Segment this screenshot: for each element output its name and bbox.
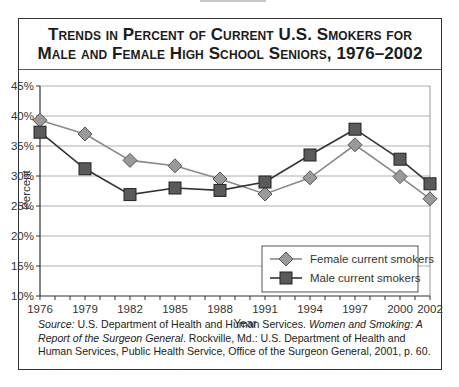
female-data-point: [123, 153, 137, 167]
source-label: Source:: [38, 318, 75, 330]
male-data-point: [34, 126, 46, 138]
legend-square-icon: [280, 272, 292, 284]
male-data-point: [304, 149, 316, 161]
legend-label: Female current smokers: [310, 253, 434, 265]
x-tick-label: 2002: [417, 303, 443, 315]
x-tick-label: 1976: [27, 303, 53, 315]
x-tick-label: 1988: [207, 303, 233, 315]
female-data-point: [168, 159, 182, 173]
y-tick-label: 15%: [11, 260, 34, 272]
y-tick-label: 40%: [11, 110, 34, 122]
female-data-point: [393, 170, 407, 184]
x-tick-label: 1982: [117, 303, 143, 315]
x-tick-label: 2000: [387, 303, 413, 315]
female-data-point: [348, 138, 362, 152]
y-axis-title: Percent: [20, 169, 32, 209]
male-data-point: [259, 176, 271, 188]
female-data-point: [33, 113, 47, 127]
x-tick-label: 1997: [342, 303, 368, 315]
x-tick-label: 1985: [162, 303, 188, 315]
female-data-point: [78, 127, 92, 141]
x-tick-label: 1979: [72, 303, 98, 315]
male-data-point: [169, 182, 181, 194]
y-tick-label: 20%: [11, 230, 34, 242]
y-tick-label: 35%: [11, 140, 34, 152]
male-data-point: [424, 178, 436, 190]
source-text-1: U.S. Department of Health and Human Serv…: [75, 318, 309, 330]
male-data-point: [349, 123, 361, 135]
male-data-point: [124, 189, 136, 201]
male-data-point: [79, 163, 91, 175]
female-data-point: [258, 187, 272, 201]
female-data-point: [303, 171, 317, 185]
y-tick-label: 10%: [11, 290, 34, 302]
legend-label: Male current smokers: [310, 272, 421, 284]
male-data-point: [214, 184, 226, 196]
x-tick-label: 1991: [252, 303, 278, 315]
source-citation: Source: U.S. Department of Health and Hu…: [38, 318, 438, 359]
female-data-point: [423, 192, 437, 206]
male-data-point: [394, 153, 406, 165]
y-tick-label: 45%: [11, 80, 34, 92]
x-tick-label: 1994: [297, 303, 323, 315]
